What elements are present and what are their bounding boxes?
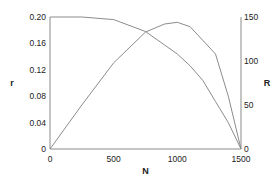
x-axis-label: N (142, 166, 149, 176)
y-tick-label: 0.08 (29, 91, 46, 101)
y-tick-label: 0.20 (29, 12, 46, 22)
y-tick-label: 0 (41, 144, 46, 154)
y-tick-label: 0.16 (29, 38, 46, 48)
y2-axis-label: R (264, 78, 271, 88)
series-line-r (50, 22, 241, 149)
y-axis-label: r (10, 78, 14, 88)
y2-tick-label: 100 (244, 56, 258, 66)
y2-tick-label: 0 (244, 144, 249, 154)
y2-tick-labels: 050100150 (244, 12, 258, 154)
y-tick-label: 0.04 (29, 118, 46, 128)
x-tick-label: 0 (48, 154, 53, 164)
y2-tick-label: 150 (244, 12, 258, 22)
chart: 050010001500 00.040.080.120.160.20 05010… (0, 0, 279, 182)
y-tick-label: 0.12 (29, 65, 46, 75)
y-tick-labels: 00.040.080.120.160.20 (29, 12, 46, 154)
series-lines (50, 17, 241, 149)
series-line-r (50, 17, 241, 149)
y2-tick-label: 50 (244, 100, 254, 110)
x-tick-label: 1000 (168, 154, 187, 164)
x-tick-label: 500 (107, 154, 121, 164)
x-tick-label: 1500 (232, 154, 251, 164)
axes (50, 17, 241, 149)
x-tick-labels: 050010001500 (48, 154, 251, 164)
